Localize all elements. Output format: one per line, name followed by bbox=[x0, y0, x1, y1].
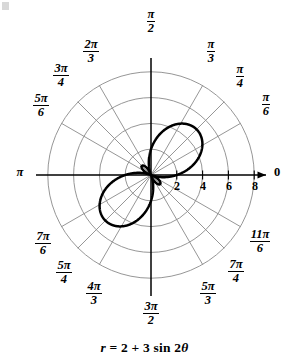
theta-label-pi-over-3: π 3 bbox=[191, 38, 231, 65]
theta-label-pi-over-4: π 4 bbox=[220, 63, 260, 90]
theta-label-7pi-over-4: 7π 4 bbox=[214, 258, 258, 285]
theta-label-pi-over-6: π 6 bbox=[248, 91, 284, 118]
polar-axis-arrowhead bbox=[258, 171, 267, 178]
equation-caption: r = 2 + 3 sin 2θ bbox=[0, 340, 289, 356]
theta-label-4pi-over-3: 4π 3 bbox=[72, 280, 116, 307]
theta-label-3pi-over-4: 3π 4 bbox=[39, 62, 83, 89]
theta-label-pi-over-2: π 2 bbox=[131, 8, 171, 35]
theta-label-2pi-over-3: 2π 3 bbox=[69, 38, 113, 65]
spoke-45 bbox=[151, 102, 224, 175]
radial-tick-label-6: 6 bbox=[222, 180, 236, 192]
spoke-225 bbox=[78, 175, 151, 248]
caption-theta: θ bbox=[181, 340, 188, 355]
theta-label-5pi-over-6: 5π 6 bbox=[19, 92, 63, 119]
radial-tick-label-8: 8 bbox=[248, 180, 262, 192]
spoke-150 bbox=[62, 123, 151, 175]
radial-tick-label-2: 2 bbox=[170, 180, 184, 192]
spoke-135 bbox=[78, 102, 151, 175]
spoke-120 bbox=[99, 86, 151, 175]
radial-tick-label-4: 4 bbox=[196, 180, 210, 192]
theta-label-3pi-over-2: 3π 2 bbox=[131, 300, 171, 327]
spoke-315 bbox=[151, 175, 224, 248]
theta-label-11pi-over-6: 11π 6 bbox=[234, 228, 286, 255]
theta-label-zero: 0 bbox=[268, 166, 286, 179]
polar-plot-figure: π 2 2π 3 3π 4 5π 6 π π 3 π 4 bbox=[0, 0, 289, 364]
theta-label-pi: π bbox=[8, 166, 32, 179]
caption-body: = 2 + 3 sin 2 bbox=[106, 340, 181, 355]
theta-label-7pi-over-6: 7π 6 bbox=[21, 230, 65, 257]
